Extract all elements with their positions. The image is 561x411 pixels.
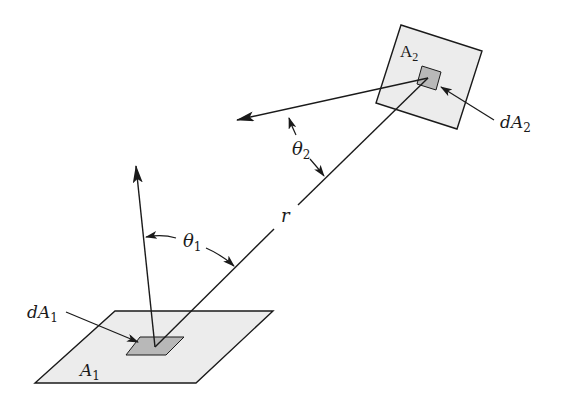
label-r: r: [281, 205, 291, 226]
theta1-arrow-right: [206, 248, 234, 266]
theta2-arrow-down: [310, 159, 324, 176]
distance-line-upper: [298, 78, 428, 205]
label-da2: dA2: [500, 112, 531, 135]
theta2-arrow-up: [289, 118, 296, 135]
label-theta1: θ1: [183, 230, 201, 254]
theta1-arrow-left: [146, 236, 176, 238]
view-factor-diagram: A2 A1 dA1 dA2 θ1 θ2 r: [0, 0, 561, 411]
label-theta2: θ2: [292, 138, 310, 162]
label-da1: dA1: [27, 302, 58, 325]
diagram-svg: A2 A1 dA1 dA2 θ1 θ2 r: [0, 0, 561, 411]
